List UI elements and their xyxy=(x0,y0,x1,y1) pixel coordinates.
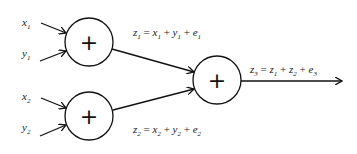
input-label-y1: y1 xyxy=(21,47,30,62)
equation-z2: z2 = x2 + y2 + e2 xyxy=(132,123,202,138)
arrow-y2-to-sum2 xyxy=(40,125,66,136)
arrow-x2-to-sum2 xyxy=(41,98,66,108)
input-label-y2: y2 xyxy=(21,121,31,136)
arrow-y1-to-sum1 xyxy=(40,51,66,61)
arrow-sum1-to-sum3 xyxy=(112,49,194,72)
input-label-x1: x1 xyxy=(21,16,30,31)
arrow-sum2-to-sum3 xyxy=(113,89,194,110)
sum-node-1: + xyxy=(65,18,113,66)
plus-icon: + xyxy=(80,30,98,55)
arrow-x1-to-sum1 xyxy=(41,23,66,33)
plus-icon: + xyxy=(80,104,98,129)
plus-icon: + xyxy=(208,68,226,93)
sum-node-2: + xyxy=(65,92,113,140)
equation-z3: z3 = z1 + z2 + e3 xyxy=(249,63,317,78)
equation-z1: z1 = x1 + y1 + e1 xyxy=(132,26,201,41)
input-label-x2: x2 xyxy=(21,90,31,105)
adder-network-diagram: x1 y1 x2 y2 + + + z1 = x1 + y1 + e1 z2 =… xyxy=(0,0,357,154)
sum-node-3: + xyxy=(193,56,241,104)
